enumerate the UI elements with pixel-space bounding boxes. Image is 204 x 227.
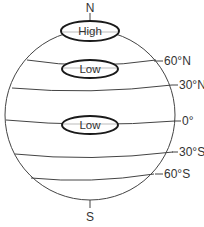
latitude-label-30n: 30°N [179,78,204,92]
north-label: N [86,1,95,15]
latitude-label-60s: 60°S [164,167,190,181]
latitude-label-30s: 30°S [179,145,204,159]
south-label: S [86,210,94,224]
pressure-belt-diagram: N S 60°N 30°N 0° 30°S 60°S High Low Low [0,0,204,227]
pressure-label-low-60n: Low [79,63,101,75]
latitude-line-30n [12,85,172,91]
pressure-label-high: High [78,25,102,37]
latitude-label-equator: 0° [182,114,194,128]
latitude-line-30s [15,152,173,158]
latitude-line-60s [31,174,154,180]
latitude-label-60n: 60°N [164,54,191,68]
pressure-label-low-equator: Low [79,119,101,131]
